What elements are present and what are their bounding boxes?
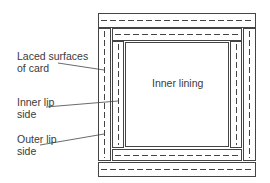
inner-top-strip xyxy=(113,29,242,41)
outer-right-strip xyxy=(244,29,256,161)
label-inner-lip-side: Inner lip side xyxy=(17,96,54,120)
inner-bottom-strip xyxy=(113,150,242,161)
inner-left-strip xyxy=(113,42,124,148)
outer-top-strip xyxy=(99,14,256,28)
inner-lining-panel xyxy=(126,43,229,147)
outer-left-strip xyxy=(99,29,111,161)
outer-bottom-strip xyxy=(99,163,256,177)
label-outer-lip-side: Outer lip side xyxy=(17,133,57,157)
label-laced-surfaces: Laced surfaces of card xyxy=(17,50,88,74)
inner-right-strip xyxy=(231,42,242,148)
label-inner-lining: Inner lining xyxy=(152,77,203,89)
card-lacing-diagram: Laced surfaces of card Inner lip side Ou… xyxy=(0,0,270,183)
leader-line-inner-lip xyxy=(46,101,118,107)
